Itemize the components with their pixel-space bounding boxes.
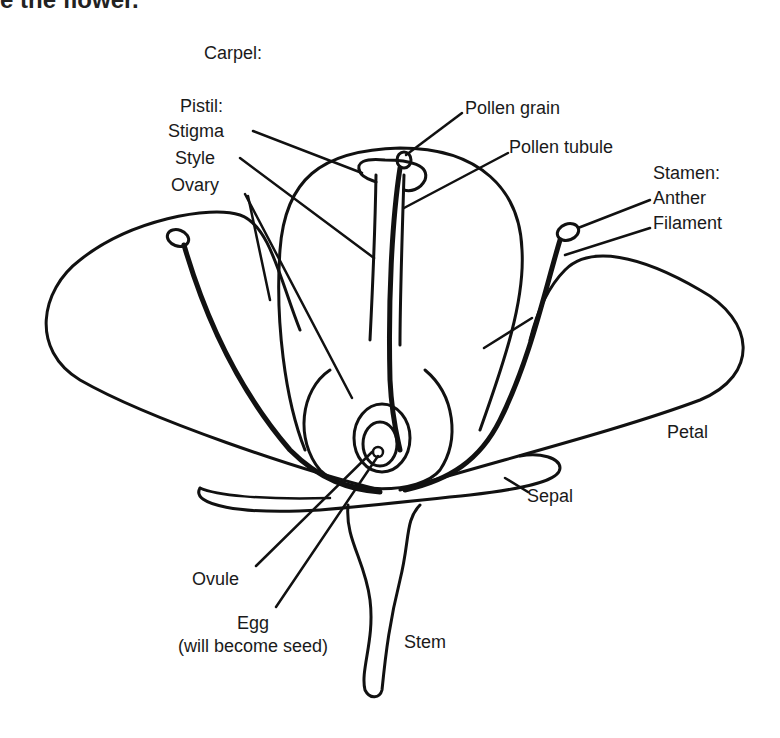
sepal-lower-edge (200, 488, 330, 498)
label-stamen: Stamen: (653, 163, 720, 183)
stem-outline (348, 505, 420, 697)
left-anther (165, 227, 191, 250)
leader-pollen-grain (406, 113, 462, 155)
stigma-outline (359, 160, 426, 191)
label-ovary: Ovary (171, 175, 219, 195)
right-petal-outline (400, 256, 743, 490)
label-pollen-tubule: Pollen tubule (509, 137, 613, 157)
label-filament: Filament (653, 213, 722, 233)
label-ovule: Ovule (192, 569, 239, 589)
leader-stigma (253, 131, 362, 173)
ovule-inner (363, 422, 397, 466)
leader-anther (578, 200, 650, 228)
label-sepal: Sepal (527, 486, 573, 506)
label-petal: Petal (667, 422, 708, 442)
label-pollen-grain: Pollen grain (465, 98, 560, 118)
label-pistil: Pistil: (180, 96, 223, 116)
label-carpel: Carpel: (204, 43, 262, 63)
right-filament (405, 240, 560, 490)
label-stigma: Stigma (168, 121, 224, 141)
leader-style (240, 158, 374, 258)
label-anther: Anther (653, 188, 706, 208)
flower-illustration (0, 0, 780, 738)
sepal-outline (199, 455, 560, 512)
flower-diagram: e the flower. (0, 0, 780, 738)
label-style: Style (175, 148, 215, 168)
style-right-edge (400, 175, 404, 345)
leader-ovary-bend (248, 196, 270, 300)
left-petal-outline (46, 212, 380, 490)
label-egg-note: (will become seed) (153, 636, 353, 656)
label-stem: Stem (404, 632, 446, 652)
label-egg: Egg (153, 613, 353, 633)
leader-ovary (245, 194, 352, 398)
